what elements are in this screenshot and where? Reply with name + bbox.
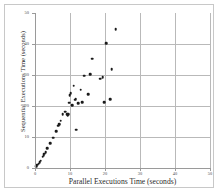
scatter-point (39, 160, 42, 163)
y-axis-tick (32, 106, 35, 107)
y-axis-tick-label: 10 (17, 134, 29, 140)
x-axis-line (35, 168, 210, 169)
scatter-point (105, 42, 108, 45)
scatter-point (110, 68, 113, 71)
scatter-point (80, 89, 83, 92)
gridline-vertical (210, 13, 211, 168)
scatter-point (83, 74, 86, 77)
scatter-chart-figure: Parallel Executions Time (seconds) Seque… (0, 0, 219, 193)
x-axis-tick-label: 30 (138, 171, 142, 177)
scatter-point (55, 130, 58, 133)
scatter-point (44, 151, 47, 154)
y-axis-tick-label: 0 (17, 165, 29, 171)
y-axis-tick-label: 40 (17, 41, 29, 47)
y-axis-tick (32, 137, 35, 138)
gridline-horizontal (35, 137, 210, 138)
scatter-point (109, 98, 112, 101)
scatter-point (74, 98, 77, 101)
plot-area (35, 13, 210, 168)
gridline-vertical (105, 13, 106, 168)
y-axis-tick-label: 30 (17, 72, 29, 78)
scatter-point (87, 93, 90, 96)
scatter-point (69, 92, 72, 95)
y-axis-line (35, 13, 36, 168)
scatter-point (67, 113, 70, 116)
x-axis-tick-label: 20 (103, 171, 107, 177)
scatter-point (58, 123, 61, 126)
x-axis-label: Parallel Executions Time (seconds) (35, 177, 210, 186)
x-axis-tick-label: 40 (173, 171, 177, 177)
y-axis-tick (32, 44, 35, 45)
x-axis-tick-label: 50 (208, 171, 212, 177)
y-axis-tick-label: 50 (17, 10, 29, 16)
x-axis-tick-label: 10 (68, 171, 72, 177)
scatter-point (91, 57, 94, 60)
scatter-point (59, 120, 62, 123)
scatter-point (61, 113, 64, 116)
scatter-point (101, 76, 104, 79)
scatter-point (46, 147, 49, 150)
gridline-horizontal (35, 44, 210, 45)
y-axis-tick (32, 168, 35, 169)
scatter-point (49, 142, 52, 145)
scatter-point (103, 101, 106, 104)
scatter-point (72, 85, 75, 88)
scatter-point (114, 28, 117, 31)
scatter-point (71, 104, 74, 107)
y-axis-tick-label: 20 (17, 103, 29, 109)
scatter-point (52, 136, 55, 139)
scatter-point (81, 101, 84, 104)
scatter-point (68, 102, 71, 105)
scatter-point (89, 73, 92, 76)
y-axis-tick (32, 13, 35, 14)
gridline-vertical (175, 13, 176, 168)
y-axis-tick (32, 75, 35, 76)
gridline-vertical (140, 13, 141, 168)
scatter-point (75, 129, 78, 132)
x-axis-tick-label: 0 (34, 171, 36, 177)
gridline-horizontal (35, 75, 210, 76)
scatter-point (77, 102, 80, 105)
gridline-horizontal (35, 106, 210, 107)
gridline-vertical (70, 13, 71, 168)
